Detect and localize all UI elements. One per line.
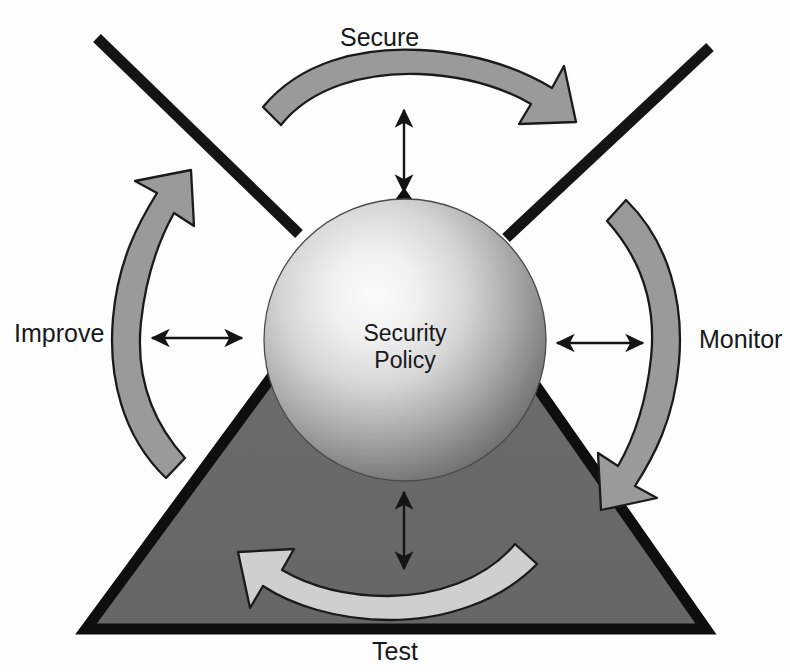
secure-arrow-shape	[263, 50, 576, 125]
stage-label-secure: Secure	[340, 25, 419, 50]
diagonal-line-left	[97, 38, 299, 234]
sphere-label: Security Policy	[305, 320, 505, 374]
sphere-label-line1: Security	[305, 320, 505, 347]
monitor-arrow	[598, 200, 680, 510]
diagonal-line-right	[506, 47, 710, 238]
improve-arrow	[112, 170, 194, 478]
monitor-arrow-shape	[598, 200, 680, 510]
improve-arrow-shape	[112, 170, 194, 478]
secure-arrow	[263, 50, 576, 125]
stage-label-improve: Improve	[14, 321, 104, 346]
diagram-canvas: Secure Improve Monitor Test Security Pol…	[0, 0, 790, 672]
stage-label-test: Test	[372, 639, 418, 664]
stage-label-monitor: Monitor	[699, 327, 782, 352]
sphere-label-line2: Policy	[305, 347, 505, 374]
